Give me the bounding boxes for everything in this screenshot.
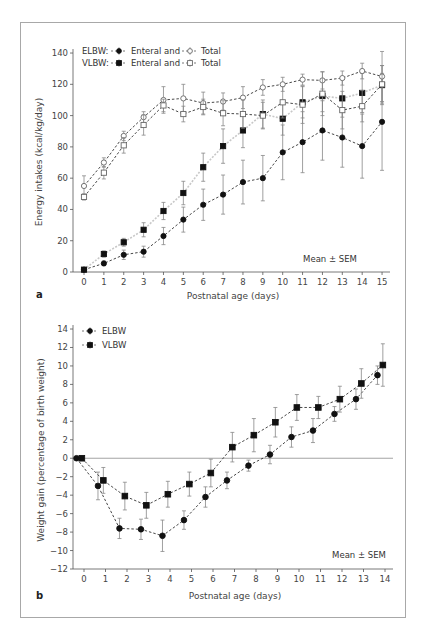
y-tick-label: 140 (52, 48, 68, 58)
data-point-square (117, 61, 122, 66)
data-point-square (300, 102, 305, 107)
x-tick-label: 10 (277, 277, 288, 287)
data-point-circle (260, 85, 265, 90)
data-point-circle (74, 455, 80, 461)
x-tick-label: 2 (121, 277, 126, 287)
x-tick-label: 5 (181, 277, 186, 287)
data-point-square (101, 251, 106, 256)
data-point-circle (320, 128, 325, 133)
x-tick-label: 1 (103, 574, 108, 584)
data-point-circle (181, 517, 187, 523)
panel-a-plot: 0204060801001201400123456789101112131415 (52, 48, 390, 287)
data-point-square (121, 143, 126, 148)
data-point-circle (280, 82, 285, 87)
series-line (84, 122, 382, 270)
data-point-circle (260, 176, 265, 181)
y-tick-label: 20 (57, 236, 68, 246)
x-tick-label: 6 (210, 574, 215, 584)
legend-elbw-total: Total (200, 46, 221, 56)
panel-a-legend: ELBW: VLBW: Enteral and Enteral and Tota… (82, 46, 221, 68)
data-point-circle (240, 95, 245, 100)
data-point-circle (181, 217, 186, 222)
data-point-square (316, 405, 322, 411)
data-point-circle (121, 252, 126, 257)
x-tick-label: 6 (201, 277, 206, 287)
data-point-circle (181, 96, 186, 101)
data-point-circle (300, 140, 305, 145)
y-tick-label: 8 (63, 379, 68, 389)
data-point-circle (161, 233, 166, 238)
x-tick-label: 0 (81, 574, 86, 584)
data-point-square (220, 143, 225, 148)
y-tick-label: 12 (57, 342, 68, 352)
x-tick-label: 4 (161, 277, 166, 287)
data-point-square (141, 227, 146, 232)
panel-b-legend: ELBW VLBW (82, 326, 127, 350)
data-point-circle (203, 494, 209, 500)
y-tick-label: −12 (50, 564, 68, 574)
data-point-circle (220, 192, 225, 197)
data-point-square (294, 405, 300, 411)
data-point-square (161, 208, 166, 213)
panel-a: a Postnatal age (days) Energy intakes (k… (34, 46, 357, 301)
x-tick-label: 2 (124, 574, 129, 584)
data-point-square (340, 108, 345, 113)
data-point-circle (240, 179, 245, 184)
panel-a-label: a (36, 289, 43, 300)
x-tick-label: 8 (253, 574, 258, 584)
y-tick-label: 100 (52, 111, 68, 121)
y-tick-label: 6 (63, 398, 68, 408)
data-point-circle (289, 434, 295, 440)
data-point-square (141, 122, 146, 127)
panel-b-label: b (36, 590, 43, 601)
y-tick-label: 0 (63, 267, 68, 277)
data-point-square (161, 103, 166, 108)
data-point-circle (360, 143, 365, 148)
legend-vlbw-total: Total (200, 58, 221, 68)
data-point-square (240, 111, 245, 116)
y-tick-label: −8 (55, 527, 68, 537)
data-point-square (122, 493, 128, 499)
data-point-square (240, 128, 245, 133)
data-point-square (121, 240, 126, 245)
data-point-circle (246, 463, 252, 469)
data-point-square (201, 104, 206, 109)
data-point-circle (332, 411, 338, 417)
data-point-circle (201, 202, 206, 207)
y-tick-label: 40 (57, 204, 68, 214)
data-point-square (201, 165, 206, 170)
y-tick-label: 10 (57, 361, 68, 371)
x-tick-label: 9 (260, 277, 265, 287)
data-point-square (101, 478, 107, 484)
x-tick-label: 14 (380, 574, 391, 584)
data-point-circle (224, 478, 230, 484)
data-point-circle (353, 396, 359, 402)
data-point-square (360, 104, 365, 109)
data-point-square (320, 91, 325, 96)
data-point-square (81, 267, 86, 272)
x-tick-label: 13 (358, 574, 369, 584)
x-tick-label: 3 (146, 574, 151, 584)
data-point-square (260, 113, 265, 118)
data-point-circle (340, 135, 345, 140)
data-point-circle (81, 183, 86, 188)
x-tick-label: 10 (294, 574, 305, 584)
data-point-square (230, 444, 236, 450)
data-point-square (220, 111, 225, 116)
data-point-circle (95, 483, 101, 489)
data-point-circle (280, 150, 285, 155)
data-point-circle (300, 77, 305, 82)
data-point-circle (375, 372, 381, 378)
data-point-circle (117, 526, 123, 532)
panel-b-x-axis-title: Postnatal age (days) (189, 591, 281, 601)
legend-elbw: ELBW (102, 326, 127, 336)
x-tick-label: 7 (232, 574, 237, 584)
data-point-circle (117, 49, 122, 54)
panel-a-y-axis-title: Energy intakes (kcal/kg/day) (34, 98, 44, 226)
data-point-circle (88, 329, 93, 334)
data-point-circle (160, 533, 166, 539)
legend-vlbw: VLBW (102, 340, 127, 350)
series-line (84, 71, 382, 186)
series-vlbw-enteral (81, 66, 384, 273)
data-point-circle (141, 249, 146, 254)
